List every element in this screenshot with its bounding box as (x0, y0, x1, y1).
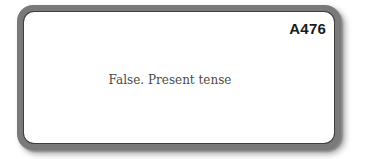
answer-card-body: A476 False. Present tense (24, 12, 334, 143)
answer-card: A476 False. Present tense (17, 5, 341, 150)
card-answer-text: False. Present tense (24, 73, 334, 87)
card-id-label: A476 (289, 20, 326, 37)
